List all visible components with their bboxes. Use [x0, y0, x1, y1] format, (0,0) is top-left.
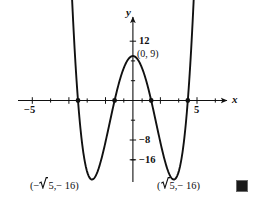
left-minimum-label: ( − 5 , − 16 )	[30, 176, 79, 192]
plot-canvas	[0, 0, 261, 203]
right-min-y-value: − 16	[177, 181, 196, 192]
radical-sign-icon	[161, 176, 170, 192]
y-axis	[130, 17, 136, 182]
y-axis-label: y	[126, 7, 131, 18]
x-axis-label: x	[232, 94, 238, 105]
left-min-close-paren: )	[75, 181, 79, 192]
right-min-close-paren: )	[196, 181, 200, 192]
y-tick-label-neg16: −16	[139, 155, 155, 166]
y-tick-label-12: 12	[139, 36, 150, 47]
x-axis	[18, 97, 227, 104]
right-minimum-label: ( 5 , − 16 )	[157, 176, 200, 192]
x-intercept-dot	[149, 98, 154, 103]
y-intercept-label: (0, 9)	[137, 49, 159, 59]
x-intercept-dot	[76, 98, 81, 103]
end-of-proof-marker	[236, 180, 248, 192]
x-tick-label-5: 5	[194, 105, 199, 116]
y-tick-label-neg8: −8	[139, 135, 150, 146]
x-intercept-dot	[185, 98, 190, 103]
x-tick-label-neg5: −5	[24, 105, 35, 116]
radical-sign-icon	[39, 176, 48, 192]
left-min-y-value: − 16	[56, 181, 75, 192]
quartic-graph-figure: x y −5 5 12 −8 −16 (0, 9) ( − 5 , − 16 )…	[0, 0, 261, 203]
x-intercept-dot	[112, 98, 117, 103]
